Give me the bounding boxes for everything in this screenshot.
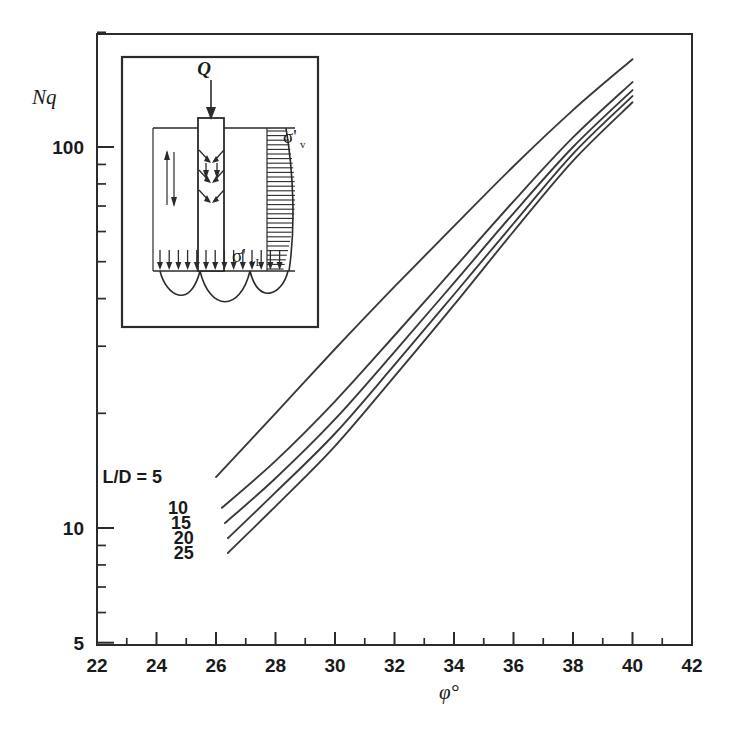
x-tick-label: 28 [265, 655, 286, 676]
x-tick-label: 22 [86, 655, 107, 676]
y-axis-tick-labels: 510100 [52, 137, 84, 654]
y-axis-title: Nq [31, 85, 57, 109]
x-tick-label: 24 [146, 655, 168, 676]
x-tick-label: 34 [443, 655, 465, 676]
x-axis-title: φ° [439, 680, 460, 704]
x-tick-label: 32 [384, 655, 405, 676]
load-label-Q: Q [197, 58, 211, 79]
y-tick-label: 5 [73, 633, 84, 654]
x-tick-label: 30 [324, 655, 345, 676]
stress-label-sigma-vL: σ' [232, 245, 246, 266]
x-tick-label: 42 [681, 655, 702, 676]
y-tick-label: 10 [63, 518, 84, 539]
stress-label-sigma-v: σ' [283, 126, 297, 147]
chart-svg: 2224262830323436384042 510100 Nq φ° L/D … [0, 0, 729, 730]
inset-diagram: Q [122, 57, 318, 327]
y-tick-label: 100 [52, 137, 84, 158]
stress-label-sigma-v-subscript: v [300, 138, 306, 150]
stress-label-sigma-vL-subscript: vL [250, 256, 263, 268]
curve-label-l-d-25: 25 [174, 543, 194, 563]
curve-label-l-d-5: L/D = 5 [102, 467, 162, 487]
curve-labels: L/D = 510152025 [102, 467, 193, 563]
nq-vs-phi-chart: 2224262830323436384042 510100 Nq φ° L/D … [0, 0, 729, 730]
x-tick-label: 26 [205, 655, 226, 676]
x-tick-label: 40 [622, 655, 643, 676]
y-axis-ticks [97, 32, 114, 642]
x-tick-label: 38 [562, 655, 583, 676]
x-axis-tick-labels: 2224262830323436384042 [86, 655, 702, 676]
x-axis-ticks [97, 632, 692, 645]
x-tick-label: 36 [503, 655, 524, 676]
